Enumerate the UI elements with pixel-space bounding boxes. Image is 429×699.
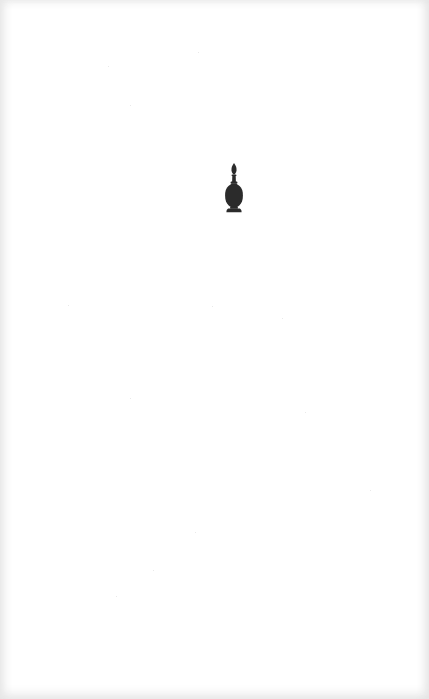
scan-speck	[130, 398, 131, 399]
perfume-bottle-ornament: Decorative ornament: small stoppered sce…	[222, 160, 246, 216]
scan-speck	[130, 105, 131, 106]
scan-speck	[282, 318, 283, 319]
scan-speck	[198, 52, 199, 53]
scan-speck	[153, 570, 154, 571]
scan-speck	[68, 305, 69, 306]
perfume-bottle-icon	[222, 160, 246, 216]
scan-speck	[116, 596, 117, 597]
scan-speck	[370, 490, 371, 491]
scan-speck	[305, 412, 306, 413]
scan-speck	[108, 66, 109, 67]
scan-speck	[212, 306, 213, 307]
scan-speck	[195, 532, 196, 533]
scanned-book-page: Decorative ornament: small stoppered sce…	[0, 0, 429, 699]
